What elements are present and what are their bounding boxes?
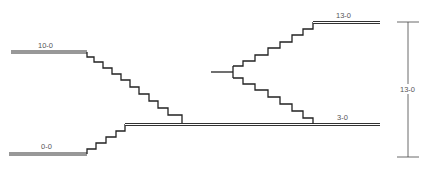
stair-section-diagram: 10-0 0-0 3-0 13-0 13-0 [0,0,427,170]
label-level-13: 13-0 [336,11,351,20]
stair-flight-to-3-right [233,78,313,124]
dimension-label: 13-0 [400,85,415,94]
label-level-0: 0-0 [41,142,52,151]
label-level-10: 10-0 [38,41,53,50]
diagram-canvas: 10-0 0-0 3-0 13-0 13-0 [0,0,427,170]
stair-flight-0-to-3 [87,124,125,154]
label-level-3: 3-0 [337,113,348,122]
stair-flight-to-13 [233,22,313,66]
stair-flight-10-to-3 [87,52,182,125]
